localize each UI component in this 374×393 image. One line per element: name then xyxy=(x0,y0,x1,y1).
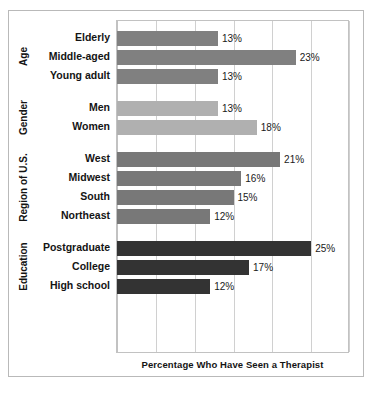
bar-value-label: 25% xyxy=(311,241,335,256)
category-label-northeast: Northeast xyxy=(20,206,116,225)
bar-row: 15% xyxy=(117,188,348,207)
category-label-column: ElderlyMiddle-agedYoung adultMenWomenWes… xyxy=(9,20,116,353)
category-label-high-school: High school xyxy=(20,276,116,295)
bar-row: 18% xyxy=(117,118,348,137)
bar-value-label: 18% xyxy=(257,120,281,135)
category-label-women: Women xyxy=(20,117,116,136)
bar-young-adult[interactable] xyxy=(117,69,218,84)
bar-row: 17% xyxy=(117,258,348,277)
bar-row: 21% xyxy=(117,150,348,169)
category-label-midwest: Midwest xyxy=(20,168,116,187)
bar-row: 16% xyxy=(117,169,348,188)
category-label-middle-aged: Middle-aged xyxy=(20,47,116,66)
bar-row: 12% xyxy=(117,207,348,226)
plot-area: 13%23%13%13%18%21%16%15%12%25%17%12% xyxy=(116,20,349,353)
category-label-elderly: Elderly xyxy=(20,28,116,47)
category-label-west: West xyxy=(20,149,116,168)
bar-northeast[interactable] xyxy=(117,209,210,224)
bar-value-label: 13% xyxy=(218,101,242,116)
bar-south[interactable] xyxy=(117,190,234,205)
bar-value-label: 12% xyxy=(210,279,234,294)
bar-men[interactable] xyxy=(117,101,218,116)
bar-value-label: 12% xyxy=(210,209,234,224)
bar-row: 25% xyxy=(117,239,348,258)
bar-row: 13% xyxy=(117,99,348,118)
bar-west[interactable] xyxy=(117,152,280,167)
category-label-college: College xyxy=(20,257,116,276)
bar-value-label: 13% xyxy=(218,69,242,84)
bar-value-label: 13% xyxy=(218,31,242,46)
chart-figure: AgeGenderRegion of U.S.Education Elderly… xyxy=(8,10,364,377)
bar-value-label: 15% xyxy=(234,190,258,205)
bar-value-label: 17% xyxy=(249,260,273,275)
bar-college[interactable] xyxy=(117,260,249,275)
bar-value-label: 21% xyxy=(280,152,304,167)
category-label-south: South xyxy=(20,187,116,206)
category-label-postgraduate: Postgraduate xyxy=(20,238,116,257)
bar-row: 12% xyxy=(117,277,348,296)
bar-postgraduate[interactable] xyxy=(117,241,311,256)
gridline-30 xyxy=(349,21,350,352)
bar-women[interactable] xyxy=(117,120,257,135)
bar-midwest[interactable] xyxy=(117,171,241,186)
x-axis-title: Percentage Who Have Seen a Therapist xyxy=(116,359,349,370)
category-label-men: Men xyxy=(20,98,116,117)
bar-elderly[interactable] xyxy=(117,31,218,46)
category-label-young-adult: Young adult xyxy=(20,66,116,85)
bar-middle-aged[interactable] xyxy=(117,50,296,65)
bar-row: 13% xyxy=(117,29,348,48)
bar-high-school[interactable] xyxy=(117,279,210,294)
bar-value-label: 16% xyxy=(241,171,265,186)
bar-row: 23% xyxy=(117,48,348,67)
bar-row: 13% xyxy=(117,67,348,86)
bar-value-label: 23% xyxy=(296,50,320,65)
